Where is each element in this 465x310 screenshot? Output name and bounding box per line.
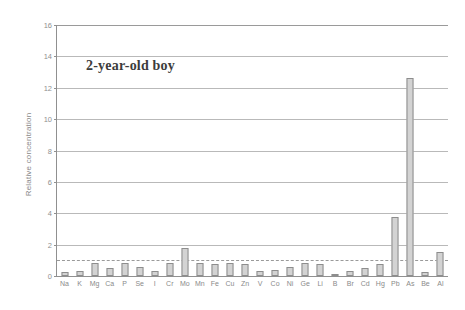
bar-group: Mn: [192, 25, 207, 276]
bar-group: Pb: [388, 25, 403, 276]
bar: [61, 272, 68, 276]
bar: [151, 271, 158, 276]
x-axis-tick-label: Be: [421, 280, 430, 287]
bar: [332, 274, 339, 276]
bar: [226, 263, 233, 276]
x-axis-tick-label: Co: [271, 280, 280, 287]
bar-group: Na: [57, 25, 72, 276]
x-axis-tick-label: Hg: [376, 280, 385, 287]
x-axis-tick-label: Se: [135, 280, 144, 287]
y-axis-tick-label: 14: [44, 52, 52, 61]
bar: [166, 263, 173, 276]
bar-group: Ni: [283, 25, 298, 276]
bar-group: Ge: [298, 25, 313, 276]
bar-group: Hg: [373, 25, 388, 276]
bar: [211, 264, 218, 276]
bar-group: Co: [268, 25, 283, 276]
bar: [347, 271, 354, 276]
bar-chart: Relative concentration 0246810121416 NaK…: [0, 0, 465, 310]
bar: [76, 271, 83, 276]
x-axis-tick-label: Pb: [391, 280, 400, 287]
y-axis-title: Relative concentration: [24, 65, 33, 245]
bar-group: K: [72, 25, 87, 276]
bar-group: Li: [313, 25, 328, 276]
x-axis-tick-label: Br: [347, 280, 354, 287]
bar-group: Cu: [222, 25, 237, 276]
x-axis-tick-label: As: [406, 280, 414, 287]
y-axis-tick-label: 2: [48, 240, 52, 249]
x-axis-tick-label: Li: [317, 280, 322, 287]
bar: [181, 248, 188, 276]
bar: [407, 78, 414, 276]
y-axis-tick-label: 16: [44, 21, 52, 30]
bar: [91, 263, 98, 276]
bar: [106, 268, 113, 276]
x-axis-tick-label: V: [258, 280, 263, 287]
x-axis-tick-label: K: [77, 280, 82, 287]
x-axis-tick-label: Ni: [287, 280, 294, 287]
bar: [377, 264, 384, 276]
x-axis-tick-label: Al: [437, 280, 443, 287]
x-axis-tick-label: Na: [60, 280, 69, 287]
x-axis-tick-label: Mo: [180, 280, 190, 287]
bar: [272, 270, 279, 276]
bar: [287, 267, 294, 276]
bar: [257, 271, 264, 276]
bar: [302, 263, 309, 276]
bar: [392, 217, 399, 276]
x-axis-tick-label: Mg: [90, 280, 100, 287]
bar-group: Al: [433, 25, 448, 276]
y-axis-tick-label: 0: [48, 272, 52, 281]
bar-group: Mo: [177, 25, 192, 276]
bar-group: Br: [343, 25, 358, 276]
bar: [196, 263, 203, 276]
x-axis-tick-label: Mn: [195, 280, 205, 287]
bar: [362, 268, 369, 276]
bar-group: As: [403, 25, 418, 276]
bar-group: B: [328, 25, 343, 276]
x-axis-tick-label: Fe: [211, 280, 219, 287]
chart-annotation: 2-year-old boy: [86, 58, 175, 74]
y-axis-tick-label: 8: [48, 146, 52, 155]
x-axis-tick-label: P: [122, 280, 127, 287]
bar: [422, 272, 429, 276]
bar-group: V: [253, 25, 268, 276]
bar: [317, 264, 324, 276]
bar-group: Fe: [207, 25, 222, 276]
bar: [437, 252, 444, 276]
x-axis-tick-label: Zn: [241, 280, 249, 287]
y-axis-tick-label: 6: [48, 177, 52, 186]
bar-group: Be: [418, 25, 433, 276]
x-axis-tick-label: Cd: [361, 280, 370, 287]
x-axis-tick-label: Ca: [105, 280, 114, 287]
y-axis-tick-label: 10: [44, 115, 52, 124]
x-axis-tick-label: B: [333, 280, 338, 287]
y-axis-tick-label: 12: [44, 83, 52, 92]
x-axis-tick-label: I: [154, 280, 156, 287]
bar-group: Zn: [237, 25, 252, 276]
bar: [241, 264, 248, 276]
bar: [121, 263, 128, 276]
bar-group: Cd: [358, 25, 373, 276]
x-axis-tick-label: Cr: [166, 280, 173, 287]
x-axis-tick-label: Cu: [225, 280, 234, 287]
x-axis-tick-label: Ge: [300, 280, 309, 287]
y-axis-tick-mark: [54, 276, 57, 277]
y-axis-tick-label: 4: [48, 209, 52, 218]
bar: [136, 267, 143, 276]
